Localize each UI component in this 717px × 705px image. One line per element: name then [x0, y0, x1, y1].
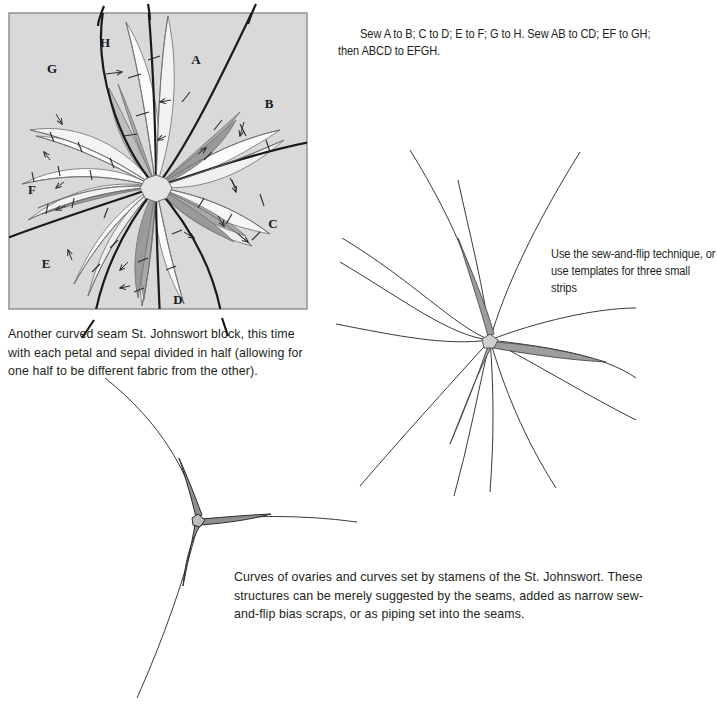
block-label-C: C — [268, 216, 277, 231]
ovary-strip-right — [201, 514, 271, 525]
center-strip-right — [493, 342, 606, 362]
block-label-H: H — [100, 35, 110, 50]
block-center-hub — [140, 175, 172, 202]
block-label-A: A — [191, 52, 201, 67]
st-johnswort-block-figure: A B C D E F G H — [8, 12, 308, 310]
ovary-curve-up — [105, 378, 199, 520]
block-label-G: G — [47, 61, 57, 76]
block-label-B: B — [265, 96, 274, 111]
ovary-figure — [95, 380, 355, 700]
block-caption: Another curved seam St. Johnswort block,… — [8, 325, 318, 381]
stamen-ray-10 — [360, 340, 490, 486]
stamen-ray-11 — [454, 340, 490, 496]
stamen-ray-4 — [342, 238, 490, 340]
strips-caption: Use the sew-and-flip technique, or use t… — [551, 246, 717, 297]
strips-caption-line-2: use templates for three small strips — [551, 263, 717, 297]
block-label-F: F — [28, 182, 36, 197]
center-strip-down — [450, 344, 493, 444]
stamen-ray-13 — [490, 340, 493, 492]
instruction-caption: Sew A to B; C to D; E to F; G to H. Sew … — [338, 26, 680, 60]
strips-caption-line-1: Use the sew-and-flip technique, or — [551, 246, 717, 263]
ovary-strip-down — [183, 524, 201, 586]
stamens-figure — [318, 140, 708, 530]
ovary-strip-group — [179, 458, 271, 586]
stamen-ray-7 — [490, 308, 636, 340]
ovary-curve-group — [105, 378, 357, 698]
stamen-ray-6 — [336, 324, 490, 342]
stamen-ray-12 — [490, 340, 556, 488]
stamen-ray-1 — [410, 150, 490, 340]
block-label-D: D — [173, 292, 182, 307]
ovary-caption-text: Curves of ovaries and curves set by stam… — [234, 568, 654, 624]
block-label-E: E — [42, 256, 51, 271]
center-strip-up — [458, 238, 494, 336]
block-caption-text: Another curved seam St. Johnswort block,… — [8, 325, 318, 381]
ovary-curve-down — [137, 520, 199, 698]
instruction-line-2: then ABCD to EFGH. — [338, 43, 680, 60]
instruction-line-1: Sew A to B; C to D; E to F; G to H. Sew … — [338, 26, 680, 43]
ovary-strip-up — [179, 458, 202, 517]
ovary-caption: Curves of ovaries and curves set by stam… — [234, 568, 654, 624]
